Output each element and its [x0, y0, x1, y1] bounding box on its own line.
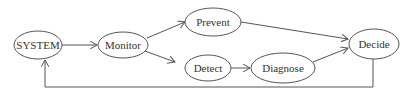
node-detect: Detect: [185, 55, 231, 81]
edge-monitor-detect: [145, 51, 175, 62]
node-diagnose-label: Diagnose: [262, 62, 304, 74]
node-detect-label: Detect: [194, 62, 223, 74]
node-prevent-label: Prevent: [196, 16, 230, 28]
edge-diagnose-decide: [313, 48, 348, 62]
node-decide-label: Decide: [358, 38, 389, 50]
node-system: SYSTEM: [14, 31, 62, 59]
node-decide: Decide: [349, 29, 399, 59]
node-diagnose: Diagnose: [251, 53, 315, 83]
edge-prevent-decide: [241, 22, 348, 39]
flow-diagram: SYSTEM Monitor Prevent Detect Diagnose D…: [0, 0, 404, 95]
node-prevent: Prevent: [185, 8, 241, 36]
node-monitor: Monitor: [98, 32, 148, 58]
edge-monitor-prevent: [147, 22, 185, 38]
node-monitor-label: Monitor: [105, 39, 141, 51]
node-system-label: SYSTEM: [16, 39, 60, 51]
